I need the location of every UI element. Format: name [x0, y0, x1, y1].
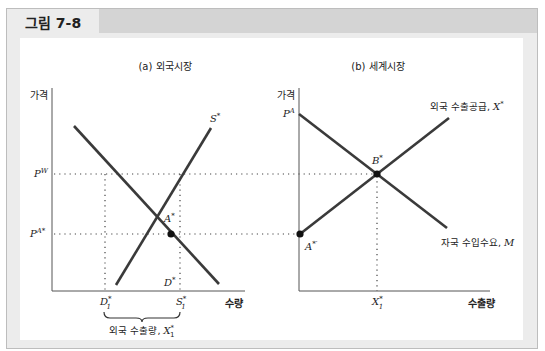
panel-a-foreign-market: (a) 외국시장 가격 수량 PW PA* A* S* D* D*1 S*1 외… [29, 61, 376, 339]
d1-tick-label: D*1 [99, 295, 112, 311]
s1-tick-label: S*1 [176, 295, 187, 311]
import-demand-label: 자국 수입수요, M [441, 237, 515, 248]
panel-a-x-axis-label: 수량 [225, 298, 244, 309]
panel-b-title: (b) 세계시장 [351, 61, 404, 72]
export-supply-label: 외국 수출공급, X* [430, 100, 504, 112]
export-quantity-brace [104, 312, 180, 322]
point-a-star-prime [296, 230, 303, 237]
x1-tick-label: X*1 [371, 295, 383, 311]
point-a-label: A* [163, 212, 175, 224]
foreign-export-quantity-label: 외국 수출량, X*1 [109, 324, 174, 339]
point-b-label: B* [371, 154, 383, 166]
point-b-star [373, 170, 380, 177]
point-a-prime-label: A*′ [304, 240, 318, 252]
point-a-star [167, 230, 174, 237]
world-price-label: PW [33, 167, 49, 179]
supply-curve-label: S* [210, 112, 221, 124]
diagram-canvas: (a) 외국시장 가격 수량 PW PA* A* S* D* D*1 S*1 외… [0, 0, 545, 351]
panel-a-y-axis-label: 가격 [30, 89, 48, 101]
panel-b-y-axis-label: 가격 [277, 89, 295, 101]
home-import-demand-curve [299, 114, 447, 228]
autarky-price-label: PA* [29, 227, 46, 239]
autarky-price-label-b: PA [282, 107, 295, 119]
panel-a-title: (a) 외국시장 [138, 61, 191, 72]
panel-b-world-market: (b) 세계시장 가격 수출량 PA B* A*′ 외국 수출공급, X* 자국… [277, 61, 515, 311]
demand-curve-label: D* [163, 276, 176, 288]
panel-b-x-axis-label: 수출량 [468, 297, 496, 309]
